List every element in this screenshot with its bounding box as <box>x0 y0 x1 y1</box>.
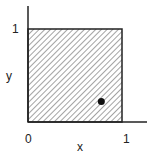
y-axis-label: y <box>6 69 12 83</box>
x-tick-1: 1 <box>123 132 130 146</box>
x-axis-label: x <box>77 140 83 154</box>
hatched-region <box>28 29 122 122</box>
y-tick-1: 1 <box>12 22 19 36</box>
unit-square-diagram: 1 y 0 1 x <box>0 0 159 155</box>
x-tick-0: 0 <box>25 132 32 146</box>
sample-point <box>98 98 105 105</box>
